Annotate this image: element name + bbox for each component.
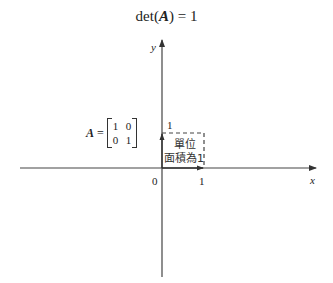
x-tick-label: 1: [199, 176, 205, 187]
matrix-name: A: [86, 126, 94, 141]
matrix-equals: =: [97, 126, 104, 141]
x-axis-label: x: [310, 175, 315, 186]
y-tick-label: 1: [167, 120, 173, 131]
matrix-cell-00: 1: [113, 121, 119, 132]
coordinate-plane: [0, 0, 333, 283]
matrix-bracket: 1 0 0 1: [107, 118, 137, 148]
matrix-cell-01: 0: [126, 121, 132, 132]
annotation-line1: 單位: [174, 139, 196, 150]
annotation-line2: 面積為1: [164, 153, 204, 164]
matrix-a: A = 1 0 0 1: [86, 118, 137, 148]
y-axis-label: y: [151, 42, 156, 53]
origin-label: 0: [152, 176, 158, 187]
matrix-cell-11: 1: [126, 135, 132, 146]
matrix-cell-10: 0: [113, 135, 119, 146]
